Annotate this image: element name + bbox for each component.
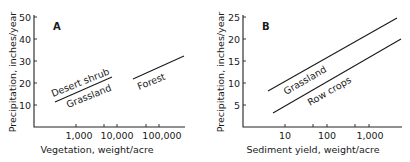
chart-b-ytick-label: 5 bbox=[234, 100, 240, 111]
chart-b-ytick-label: 25 bbox=[228, 12, 240, 23]
chart-b-ylabel: Precipitation, inches/year bbox=[215, 12, 226, 133]
chart-a-ytick-label: 40 bbox=[19, 34, 31, 45]
chart-b: 25 20 15 10 5 10 100 1,000 Sediment yiel… bbox=[215, 12, 402, 156]
chart-a-ylabel: Precipitation, inches/year bbox=[7, 12, 18, 133]
chart-a-xlabel: Vegetation, weight/acre bbox=[40, 144, 153, 155]
chart-a-ytick-label: 30 bbox=[19, 56, 31, 67]
chart-b-line-row-crops bbox=[273, 39, 401, 113]
chart-a-xtick-label: 10,000 bbox=[100, 130, 133, 141]
chart-b-ytick-label: 10 bbox=[228, 78, 240, 89]
chart-a-ytick-label: 20 bbox=[19, 78, 31, 89]
chart-b-ytick-label: 15 bbox=[228, 56, 240, 67]
chart-a-xtick-label: 100,000 bbox=[142, 130, 181, 141]
chart-b-xtick-label: 100 bbox=[318, 130, 336, 141]
chart-a-label-forest: Forest bbox=[136, 71, 167, 92]
chart-a-xtick-label: 1,000 bbox=[65, 130, 92, 141]
chart-b-panel-letter: B bbox=[262, 21, 270, 32]
chart-b-xlabel: Sediment yield, weight/acre bbox=[246, 144, 379, 155]
chart-b-line-grassland bbox=[268, 18, 397, 91]
chart-a-ytick-label: 10 bbox=[19, 100, 31, 111]
chart-a-panel-letter: A bbox=[53, 21, 61, 32]
chart-a-ytick-label: 50 bbox=[19, 12, 31, 23]
chart-a: 50 40 30 20 10 1,000 10,000 100,000 Vege… bbox=[7, 12, 185, 156]
chart-b-xtick-label: 10 bbox=[279, 130, 291, 141]
chart-b-xtick-label: 1,000 bbox=[356, 130, 383, 141]
chart-b-ytick-label: 20 bbox=[228, 34, 240, 45]
figure: 50 40 30 20 10 1,000 10,000 100,000 Vege… bbox=[0, 0, 410, 162]
